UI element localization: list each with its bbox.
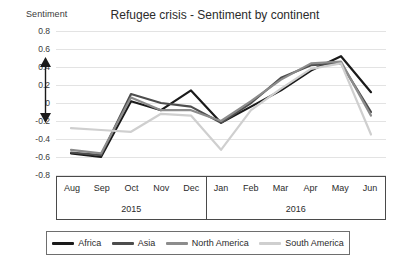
x-axis-tick-label: Aug: [57, 177, 87, 198]
legend-label: North America: [192, 238, 249, 248]
x-axis-tick-label: May: [325, 177, 355, 198]
series-line-south-america: [71, 63, 371, 149]
y-axis-tick-label: -0.6: [35, 152, 50, 162]
legend-item-north-america[interactable]: North America: [166, 238, 249, 248]
x-axis-year-label: 2015: [57, 198, 206, 219]
legend-label: South America: [285, 238, 344, 248]
legend-swatch: [166, 242, 188, 245]
x-axis-tick-label: Jun: [355, 177, 385, 198]
series-line-asia: [71, 63, 371, 155]
y-axis-tick-label: 0.8: [38, 26, 50, 36]
range-annotation-arrow: [39, 57, 52, 123]
legend-label: Africa: [78, 238, 101, 248]
legend-label: Asia: [138, 238, 156, 248]
chart-title: Refugee crisis - Sentiment by continent: [0, 8, 396, 22]
legend-item-asia[interactable]: Asia: [112, 238, 156, 248]
x-axis-tick-label: Nov: [146, 177, 176, 198]
x-axis-tick-label: Apr: [296, 177, 326, 198]
x-axis-month-row: AugSepOctNovDecJanFebMarAprMayJun: [57, 177, 385, 198]
series-lines: [56, 31, 386, 175]
x-axis-tick-label: Dec: [176, 177, 206, 198]
x-axis-year-row: 20152016: [57, 198, 385, 219]
sentiment-line-chart: Sentiment Refugee crisis - Sentiment by …: [0, 0, 396, 265]
x-axis-tick-label: Oct: [117, 177, 147, 198]
y-axis-tick-label: 0.6: [38, 44, 50, 54]
y-axis-tick-label: -0.4: [35, 134, 50, 144]
x-axis-tick-label: Feb: [236, 177, 266, 198]
series-line-africa: [71, 56, 371, 157]
x-axis-tick-label: Jan: [206, 177, 236, 198]
y-axis-tick-label: -0.8: [35, 170, 50, 180]
legend-item-africa[interactable]: Africa: [52, 238, 101, 248]
year-group-separator: [206, 177, 207, 219]
x-axis-tick-label: Sep: [87, 177, 117, 198]
plot-area: 0.80.60.40.20-0.2-0.4-0.6-0.8: [56, 31, 386, 175]
legend-item-south-america[interactable]: South America: [259, 238, 344, 248]
legend-swatch: [259, 242, 281, 245]
x-axis-year-label: 2016: [206, 198, 385, 219]
series-line-north-america: [71, 62, 371, 154]
legend-swatch: [112, 242, 134, 245]
chart-legend: AfricaAsiaNorth AmericaSouth America: [46, 231, 350, 255]
x-axis-tick-label: Mar: [266, 177, 296, 198]
legend-swatch: [52, 242, 74, 245]
x-axis: AugSepOctNovDecJanFebMarAprMayJun 201520…: [56, 176, 386, 220]
